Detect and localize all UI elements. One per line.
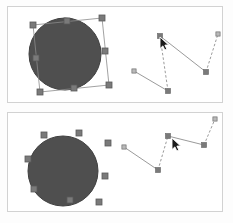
path-node-3[interactable] [166, 134, 171, 139]
path-node-1[interactable] [122, 145, 126, 149]
filled-circle-shape[interactable] [29, 18, 101, 90]
selection-group-circle-before[interactable] [29, 15, 112, 95]
cursor-arrow-glyph [172, 138, 181, 151]
handle-top-left[interactable] [41, 132, 47, 138]
handle-bottom-left[interactable] [31, 186, 37, 192]
path-segment-1[interactable] [134, 71, 168, 91]
mouse-pointer-arrow [172, 138, 181, 151]
path-node-5[interactable] [213, 117, 217, 121]
handle-top-center[interactable] [64, 18, 70, 24]
path-node-5[interactable] [216, 32, 220, 36]
path-group-before[interactable] [132, 32, 220, 94]
path-group-after[interactable] [122, 117, 217, 173]
screenshot-stage: Before state canvas After state canvas [0, 0, 233, 223]
handle-bottom-right[interactable] [96, 199, 102, 205]
filled-circle-shape[interactable] [28, 136, 98, 206]
handle-bottom-center[interactable] [67, 197, 73, 203]
selection-group-circle-after[interactable] [25, 130, 111, 206]
handle-middle-left[interactable] [25, 156, 31, 162]
cursor-group-after [172, 138, 181, 151]
handle-middle-left[interactable] [33, 55, 39, 61]
canvas-artboard-after[interactable] [8, 113, 222, 211]
handle-middle-right[interactable] [102, 173, 108, 179]
path-node-1[interactable] [132, 69, 136, 73]
path-node-2[interactable] [166, 89, 171, 94]
canvas-artboard-before[interactable] [8, 7, 222, 102]
handle-top-center[interactable] [76, 130, 82, 136]
path-segment-1[interactable] [124, 147, 158, 170]
handle-top-left[interactable] [30, 22, 36, 28]
handle-bottom-right[interactable] [106, 82, 112, 88]
path-node-2[interactable] [156, 168, 161, 173]
handle-top-right[interactable] [99, 15, 105, 21]
handle-middle-right[interactable] [102, 48, 108, 54]
canvas-panel-before[interactable]: Before state canvas [7, 6, 223, 103]
path-segment-3[interactable] [160, 36, 206, 72]
path-node-4[interactable] [202, 143, 207, 148]
path-node-4[interactable] [204, 70, 209, 75]
handle-top-right[interactable] [105, 140, 111, 146]
path-segment-2[interactable] [158, 136, 168, 170]
handle-bottom-left[interactable] [37, 89, 43, 95]
path-segment-4[interactable] [206, 34, 218, 72]
canvas-panel-after[interactable]: After state canvas [7, 112, 223, 212]
path-segment-4[interactable] [204, 119, 215, 145]
handle-bottom-center[interactable] [71, 85, 77, 91]
